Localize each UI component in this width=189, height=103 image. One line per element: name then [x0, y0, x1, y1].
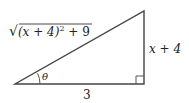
radicand: (x + 4)	[18, 25, 60, 39]
angle-arc	[38, 73, 40, 84]
radical-sign: √	[9, 23, 18, 39]
hypotenuse-label: √(x + 4)2 + 9	[9, 23, 90, 39]
right-angle-marker	[136, 76, 144, 84]
vertical-side-label: x + 4	[149, 42, 181, 56]
triangle	[15, 11, 144, 84]
right-triangle-diagram: √(x + 4)2 + 9 x + 4 3 θ	[0, 0, 189, 103]
hypotenuse-suffix: + 9	[64, 25, 89, 39]
base-label: 3	[83, 88, 91, 102]
angle-theta-label: θ	[42, 71, 48, 82]
